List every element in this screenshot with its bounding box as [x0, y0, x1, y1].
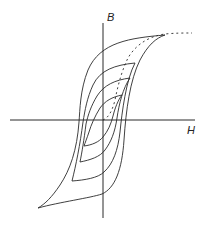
h-axis-label: H [187, 125, 195, 136]
initial-magnetization-curve [103, 33, 192, 120]
hysteresis-diagram: B H [0, 0, 209, 225]
diagram-canvas [0, 0, 209, 225]
b-axis-label: B [107, 12, 114, 23]
outer-loop [38, 35, 165, 208]
